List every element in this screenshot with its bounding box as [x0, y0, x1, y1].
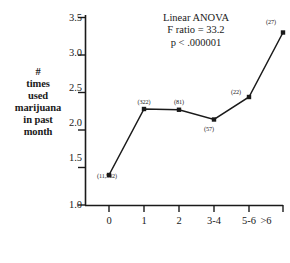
data-point->6 [281, 30, 285, 34]
chart-figure: # times used marijuana in past month Lin… [0, 0, 290, 263]
chart-plot-area [0, 0, 290, 263]
data-point-5-6 [247, 95, 251, 99]
data-point-0 [107, 173, 111, 177]
data-series-markers [107, 30, 285, 177]
data-point-3-4 [212, 117, 216, 121]
data-point-2 [177, 108, 181, 112]
data-point-1 [142, 107, 146, 111]
data-series-line [109, 33, 283, 176]
y-axis-ticks [78, 18, 85, 206]
